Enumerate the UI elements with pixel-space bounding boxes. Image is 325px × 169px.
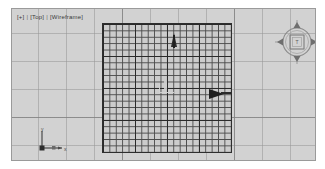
viewcube-widget[interactable]: T — [274, 19, 316, 65]
cone-object-stem — [173, 35, 175, 48]
viewport-panel[interactable]: [+]|[Top]|[Wireframe] y x — [11, 8, 316, 161]
viewport-label[interactable]: [+]|[Top]|[Wireframe] — [16, 13, 84, 21]
viewport-label-view[interactable]: [Top] — [29, 14, 45, 20]
axis-label-y: y — [41, 127, 44, 132]
pivot-marker-dot — [164, 81, 167, 89]
axis-label-x: x — [64, 147, 67, 152]
viewport-label-shading[interactable]: [Wireframe] — [49, 14, 84, 20]
screenshot-root: [+]|[Top]|[Wireframe] y x — [0, 0, 325, 169]
wedge-object-tail — [221, 92, 231, 94]
axis-tripod: y x — [36, 127, 70, 155]
viewcube-face-label: T — [274, 19, 316, 65]
wedge-object[interactable] — [209, 89, 224, 99]
